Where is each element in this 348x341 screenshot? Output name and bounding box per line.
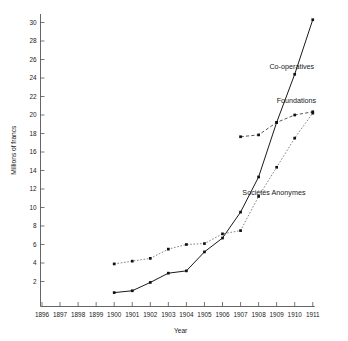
- chart-background: [0, 0, 348, 341]
- y-tick-label: 14: [29, 167, 37, 174]
- x-tick-label: 1896: [35, 311, 50, 318]
- x-tick-label: 1909: [270, 311, 285, 318]
- x-tick-label: 1904: [179, 311, 194, 318]
- data-point: [131, 289, 134, 292]
- data-point: [275, 166, 278, 169]
- series-label-1: Foundations: [277, 96, 317, 105]
- y-tick-label: 22: [29, 93, 37, 100]
- data-point: [293, 114, 296, 117]
- data-point: [185, 243, 188, 246]
- x-axis-title: Year: [174, 327, 188, 334]
- data-point: [131, 260, 134, 263]
- data-point: [167, 272, 170, 275]
- y-tick-label: 16: [29, 148, 37, 155]
- y-tick-label: 10: [29, 204, 37, 211]
- data-point: [257, 134, 260, 137]
- data-point: [311, 112, 314, 115]
- chart-plot-area: 24681012141618202224262830 1896189718981…: [0, 0, 348, 341]
- y-tick-label: 24: [29, 74, 37, 81]
- y-tick-label: 2: [33, 278, 37, 285]
- y-tick-label: 4: [33, 259, 37, 266]
- data-point: [203, 242, 206, 245]
- line-chart: 24681012141618202224262830 1896189718981…: [0, 0, 348, 341]
- x-tick-label: 1907: [233, 311, 248, 318]
- x-tick-label: 1906: [215, 311, 230, 318]
- x-tick-label: 1900: [107, 311, 122, 318]
- data-point: [311, 18, 314, 21]
- data-point: [113, 291, 116, 294]
- data-point: [167, 248, 170, 251]
- y-tick-label: 6: [33, 241, 37, 248]
- x-tick-label: 1901: [125, 311, 140, 318]
- x-tick-label: 1903: [161, 311, 176, 318]
- y-tick-label: 8: [33, 222, 37, 229]
- x-tick-label: 1905: [197, 311, 212, 318]
- data-point: [149, 281, 152, 284]
- data-point: [293, 73, 296, 76]
- data-point: [293, 137, 296, 140]
- x-tick-label: 1898: [71, 311, 86, 318]
- x-tick-label: 1902: [143, 311, 158, 318]
- data-point: [149, 257, 152, 260]
- series-label-2: Sociétés Anonymes: [242, 188, 306, 197]
- data-point: [239, 211, 242, 214]
- data-point: [221, 233, 224, 236]
- x-tick-label: 1899: [89, 311, 104, 318]
- y-axis-title: Millions of francs: [10, 125, 17, 175]
- data-point: [275, 121, 278, 124]
- y-tick-label: 26: [29, 56, 37, 63]
- data-point: [203, 251, 206, 254]
- data-point: [185, 270, 188, 273]
- x-tick-label: 1908: [251, 311, 266, 318]
- series-label-0: Co-operatives: [269, 62, 314, 71]
- data-point: [239, 135, 242, 138]
- data-point: [113, 263, 116, 266]
- y-tick-label: 30: [29, 19, 37, 26]
- y-tick-label: 12: [29, 185, 37, 192]
- x-tick-label: 1911: [306, 311, 320, 318]
- data-point: [257, 176, 260, 179]
- data-point: [221, 237, 224, 240]
- y-tick-label: 18: [29, 130, 37, 137]
- y-tick-label: 20: [29, 111, 37, 118]
- data-point: [239, 229, 242, 232]
- x-tick-label: 1897: [53, 311, 68, 318]
- x-tick-label: 1910: [288, 311, 303, 318]
- y-tick-label: 28: [29, 37, 37, 44]
